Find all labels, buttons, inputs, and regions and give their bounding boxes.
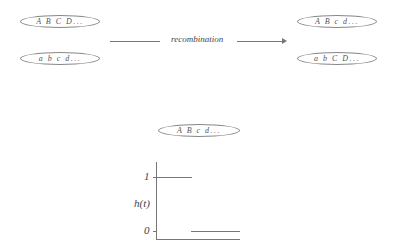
- offspring-chromosome-lower: a b C D...: [297, 52, 377, 65]
- focus-label: A B c d...: [177, 126, 221, 135]
- parent-chromosome-upper: A B C D...: [20, 15, 100, 28]
- parent-lower-label: a b c d...: [39, 54, 82, 63]
- x-axis: [156, 239, 240, 240]
- offspring-chromosome-upper: A B c d...: [297, 15, 377, 28]
- offspring-upper-label: A B c d...: [315, 17, 359, 26]
- arrow-line-right: [237, 41, 283, 42]
- y-axis: [156, 162, 157, 240]
- parent-chromosome-lower: a b c d...: [20, 52, 100, 65]
- tick-label-low: 0: [144, 224, 150, 236]
- recombination-label: recombination: [171, 34, 223, 44]
- step-low-segment: [191, 231, 240, 232]
- tick-low: [153, 231, 156, 232]
- parent-upper-label: A B C D...: [36, 17, 84, 26]
- focus-chromosome: A B c d...: [158, 124, 240, 137]
- arrow-head-icon: [282, 38, 287, 44]
- tick-label-high: 1: [144, 170, 150, 182]
- arrow-line-left: [110, 41, 160, 42]
- offspring-lower-label: a b C D...: [314, 54, 360, 63]
- step-high-segment: [156, 177, 192, 178]
- y-axis-label: h(t): [134, 197, 150, 209]
